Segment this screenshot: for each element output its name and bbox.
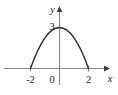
coordinate-plot: -2 0 2 3 y x (0, 0, 118, 95)
parabola-figure: -2 0 2 3 y x (0, 0, 118, 95)
x-axis-label: x (107, 73, 113, 84)
y-axis-arrow-icon (57, 6, 63, 12)
x-axis-arrow-icon (104, 66, 110, 72)
y-axis-label: y (49, 4, 55, 15)
x-tick-label-two: 2 (86, 74, 91, 85)
x-tick-label-zero: 0 (49, 74, 54, 85)
x-tick-label-neg-two: -2 (26, 74, 35, 85)
y-tick-label-three: 3 (49, 21, 54, 32)
